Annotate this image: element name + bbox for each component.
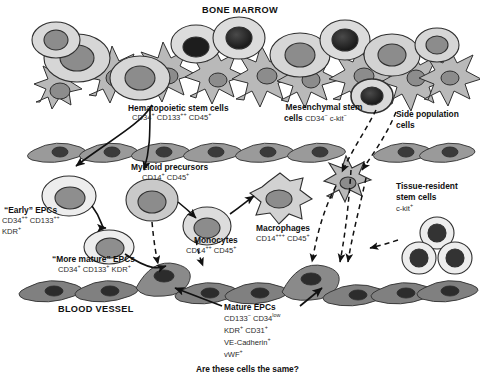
endothelial-cell-icon — [419, 143, 475, 162]
tissue-resident-markers: c-kit+ — [396, 205, 413, 214]
myeloid-precursor-cell-icon — [126, 179, 178, 221]
endothelial-cell-icon — [27, 143, 85, 162]
endothelial-cell-icon — [79, 143, 137, 162]
side-population-label: Side population — [396, 110, 459, 119]
early-epc-markers-2: KDR+ — [2, 228, 21, 237]
tissue-resident-stem-cell-icon — [402, 242, 436, 274]
figure-canvas: BONE MARROW Hematopoietic stem cells CD3… — [0, 0, 480, 380]
endothelial-cell-icon — [225, 283, 288, 304]
side-population-label-2: cells — [396, 121, 415, 130]
question-caption: Are these cells the same? — [196, 365, 299, 374]
tissue-resident-label-2: stem cells — [396, 193, 437, 202]
macrophages-markers: CD14+++ CD45+ — [256, 235, 310, 244]
mature-epc-markers-2: KDR+ CD31+ — [224, 327, 268, 336]
round-cell-icon — [110, 56, 170, 100]
endothelial-cell-icon — [235, 143, 293, 162]
blood-vessel-title: BLOOD VESSEL — [58, 304, 134, 314]
early-epc-markers: CD34++ CD133++ — [2, 217, 60, 226]
endothelial-cell-icon — [287, 143, 345, 162]
monocytes-markers: CD14++ CD45+ — [186, 247, 236, 256]
hsc-label: Hematopoietic stem cells — [128, 104, 229, 113]
mature-epc-markers-3: VE-Cadherin+ — [224, 339, 271, 348]
bone-marrow-title: BONE MARROW — [0, 5, 480, 15]
round-cell-icon — [364, 34, 420, 76]
msc-label-2: cells CD34− c-kit− — [284, 114, 347, 124]
round-cell-icon — [320, 20, 370, 60]
tissue-resident-label: Tissue-resident — [396, 182, 458, 191]
endothelial-cell-icon — [183, 143, 241, 162]
early-epc-label: “Early” EPCs — [4, 206, 57, 215]
myeloid-markers: CD14+ CD45+ — [142, 174, 189, 183]
more-mature-epc-markers: CD34+ CD133+ KDR+ — [58, 266, 131, 275]
tissue-resident-stem-cell-icon — [438, 242, 472, 274]
round-cell-icon — [415, 28, 459, 62]
myeloid-label: Myeloid precursors — [131, 163, 208, 172]
msc-label: Mesenchymal stem — [278, 103, 370, 112]
hsc-markers: CD34+ CD133++ CD45+ — [132, 114, 211, 123]
endothelial-cell-icon — [417, 281, 478, 302]
amoeboid-macrophage-icon — [250, 173, 312, 224]
mature-epc-label: Mature EPCs — [224, 303, 276, 312]
endothelial-cell-icon — [75, 281, 138, 302]
endothelial-cell-icon — [131, 143, 189, 162]
mature-epc-markers-4: vWF+ — [224, 351, 243, 360]
endothelial-cell-icon — [19, 281, 82, 302]
more-mature-epc-label: “More mature” EPCs — [52, 255, 135, 264]
mature-epc-markers-1: CD133− CD34low — [224, 315, 280, 324]
round-cell-icon — [32, 22, 80, 58]
monocytes-label: Monocytes — [194, 236, 238, 245]
round-cell-icon — [213, 17, 265, 59]
